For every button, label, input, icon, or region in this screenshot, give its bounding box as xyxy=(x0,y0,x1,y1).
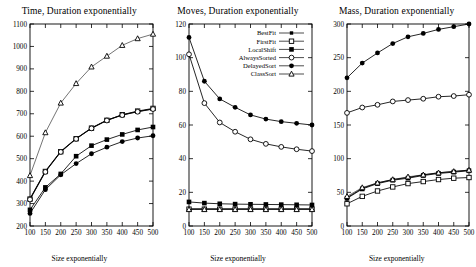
data-point-filled-circle xyxy=(289,63,294,68)
data-point-filled-square xyxy=(74,154,79,159)
x-tick-label: 350 xyxy=(418,229,429,237)
data-point-open-square xyxy=(391,185,395,189)
data-point-filled-square xyxy=(151,125,156,130)
data-point-open-circle xyxy=(74,137,79,142)
data-point-filled-square-small xyxy=(289,31,292,34)
y-tick-label: 120 xyxy=(175,21,186,29)
y-tick-label: 250 xyxy=(334,54,345,62)
data-point-filled-circle xyxy=(452,24,457,29)
data-point-open-square xyxy=(376,189,380,193)
x-tick-label: 150 xyxy=(357,229,368,237)
data-point-open-triangle xyxy=(27,173,32,178)
data-point-filled-circle xyxy=(436,27,441,32)
data-point-filled-square xyxy=(289,47,294,52)
data-point-open-circle xyxy=(58,150,63,155)
y-tick-label: 400 xyxy=(16,178,27,186)
data-point-filled-circle xyxy=(217,97,222,102)
data-point-filled-circle xyxy=(391,41,396,46)
data-point-filled-circle xyxy=(43,187,48,192)
y-tick-label: 100 xyxy=(175,54,186,62)
x-tick-label: 450 xyxy=(449,229,460,237)
legend-label-firstfit: FirstFit xyxy=(256,38,276,45)
data-point-open-circle xyxy=(289,55,294,60)
y-tick-label: 50 xyxy=(337,189,345,197)
x-tick-label: 400 xyxy=(433,229,444,237)
data-point-filled-circle xyxy=(202,79,207,84)
data-point-filled-square xyxy=(202,201,207,206)
x-tick-label: 350 xyxy=(260,229,271,237)
data-point-open-triangle xyxy=(120,43,125,48)
data-point-open-square xyxy=(345,202,349,206)
data-point-filled-circle xyxy=(263,117,268,122)
data-point-open-circle xyxy=(406,98,411,103)
data-point-open-circle xyxy=(120,113,125,118)
y-tick-label: 1000 xyxy=(13,43,28,51)
y-tick-label: 700 xyxy=(16,110,27,118)
panel-mass: Mass, Duration exponentially 05010015020… xyxy=(317,0,476,267)
x-tick-label: 100 xyxy=(25,229,36,237)
data-point-filled-circle xyxy=(406,34,411,39)
data-point-open-circle xyxy=(186,52,191,57)
figure-container: Time, Duration exponentially 20030040050… xyxy=(0,0,476,267)
plot-time: 2003004005006007008009001000110010015020… xyxy=(0,0,159,267)
data-point-filled-circle xyxy=(151,133,156,138)
y-tick-label: 200 xyxy=(334,88,345,96)
data-point-filled-circle xyxy=(186,35,191,40)
data-point-open-circle xyxy=(232,129,237,134)
data-point-filled-circle xyxy=(309,123,314,128)
y-tick-label: 900 xyxy=(16,65,27,73)
x-tick-label: 500 xyxy=(306,229,317,237)
y-tick-label: 300 xyxy=(334,21,345,29)
x-tick-label: 250 xyxy=(388,229,399,237)
data-point-open-circle xyxy=(345,110,350,115)
x-tick-label: 200 xyxy=(214,229,225,237)
data-point-filled-circle xyxy=(120,139,125,144)
data-point-filled-circle xyxy=(104,145,109,150)
x-tick-label: 300 xyxy=(86,229,97,237)
x-tick-label: 250 xyxy=(71,229,82,237)
legend-label-alwayssorted: AlwaysSorted xyxy=(238,54,276,61)
data-point-open-circle xyxy=(279,144,284,149)
x-tick-label: 350 xyxy=(101,229,112,237)
x-tick-label: 450 xyxy=(291,229,302,237)
data-point-open-circle xyxy=(309,149,314,154)
data-point-open-circle xyxy=(89,126,94,131)
y-tick-label: 300 xyxy=(16,200,27,208)
y-tick-label: 600 xyxy=(16,133,27,141)
legend-label-classsort: ClassSort xyxy=(250,70,275,77)
data-point-open-circle xyxy=(104,118,109,123)
y-tick-label: 100 xyxy=(334,155,345,163)
data-point-open-circle xyxy=(421,96,426,101)
y-tick-label: 500 xyxy=(16,155,27,163)
data-point-open-circle xyxy=(436,94,441,99)
y-tick-label: 1100 xyxy=(13,21,28,29)
data-point-open-circle xyxy=(360,105,365,110)
data-point-open-square xyxy=(360,194,364,198)
data-point-open-circle xyxy=(467,92,472,97)
y-tick-label: 150 xyxy=(334,122,345,130)
x-tick-label: 300 xyxy=(245,229,256,237)
data-point-open-square xyxy=(467,175,471,179)
data-point-filled-square xyxy=(186,200,191,205)
legend-label-delayedsort: DelayedSort xyxy=(243,62,276,69)
x-tick-label: 200 xyxy=(372,229,383,237)
x-tick-label: 250 xyxy=(229,229,240,237)
data-point-open-triangle xyxy=(43,130,48,135)
data-point-filled-circle xyxy=(421,31,426,36)
panel-time: Time, Duration exponentially 20030040050… xyxy=(0,0,159,267)
data-point-open-circle xyxy=(28,197,33,202)
data-point-open-square xyxy=(452,176,456,180)
plot-moves: 0204060801001201001502002503003504004505… xyxy=(159,0,318,267)
data-point-open-circle xyxy=(263,141,268,146)
x-tick-label: 400 xyxy=(117,229,128,237)
legend-label-bestfit: BestFit xyxy=(257,29,276,36)
y-tick-label: 80 xyxy=(178,88,186,96)
data-point-filled-circle xyxy=(360,61,365,66)
legend-label-localshift: LocalShift xyxy=(248,46,276,53)
data-point-filled-square xyxy=(120,132,125,137)
data-point-filled-circle xyxy=(58,172,63,177)
x-tick-label: 300 xyxy=(403,229,414,237)
xlabel-time: Size exponentially xyxy=(0,254,159,263)
data-point-filled-square xyxy=(105,137,110,142)
data-point-open-circle xyxy=(217,120,222,125)
